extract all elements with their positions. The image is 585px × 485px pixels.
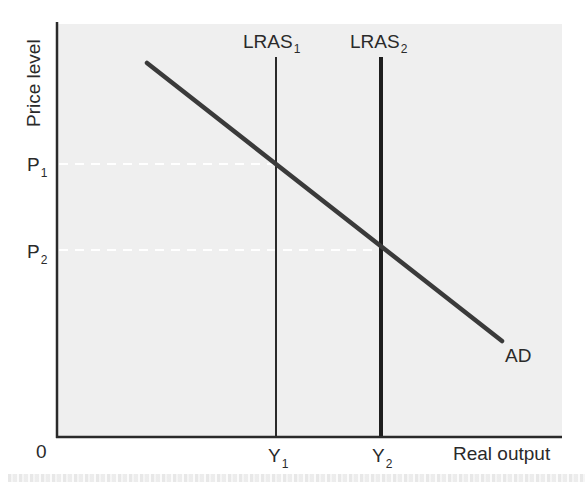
p2-label: P2 (27, 241, 48, 267)
y1-label: Y1 (268, 445, 289, 471)
p1-label: P1 (27, 154, 48, 180)
y-axis-label: Price level (23, 39, 44, 127)
origin-label: 0 (36, 441, 47, 462)
page-bleed-text-bottom (8, 474, 585, 482)
diagram-canvas: Price level P1 P2 LRAS1 LRAS2 AD 0 Y1 Y2… (0, 0, 585, 485)
plot-area (57, 24, 562, 437)
y2-label: Y2 (372, 445, 393, 471)
page-bleed-text-top (0, 0, 585, 6)
ad-label: AD (505, 345, 531, 366)
x-axis-label: Real output (453, 443, 551, 464)
ad-lras-diagram: Price level P1 P2 LRAS1 LRAS2 AD 0 Y1 Y2… (0, 0, 585, 485)
